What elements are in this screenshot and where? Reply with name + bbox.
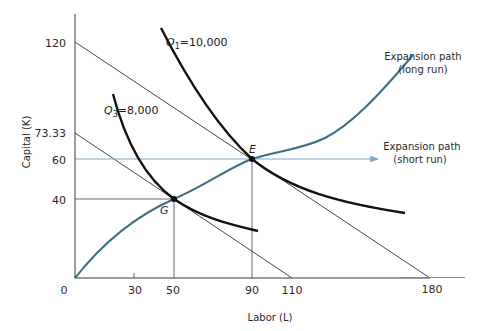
isoquant-expansion-chart: 120 73.33 60 40 0 30 50 90 110 180 Capit… xyxy=(0,0,484,331)
x-tick-110: 110 xyxy=(282,284,303,297)
label-q1-value: =10,000 xyxy=(180,36,228,49)
point-e-label: E xyxy=(249,143,256,156)
label-q3-prefix: Q xyxy=(104,104,113,117)
y-tick-73-33: 73.33 xyxy=(35,127,67,140)
annotation-long-run-line2: (long run) xyxy=(398,64,447,75)
y-tick-40: 40 xyxy=(52,194,66,207)
x-tick-90: 90 xyxy=(245,284,259,297)
x-tick-0: 0 xyxy=(61,284,68,297)
label-q1: Q1=10,000 xyxy=(166,36,227,51)
label-q3-value: =8,000 xyxy=(118,104,159,117)
point-e xyxy=(249,156,255,162)
annotation-short-run-line1: Expansion path xyxy=(383,141,460,152)
x-tick-180: 180 xyxy=(422,283,443,296)
point-g xyxy=(171,196,177,202)
point-g-label: G xyxy=(160,204,169,217)
annotation-long-run-line1: Expansion path xyxy=(384,51,461,62)
y-tick-120: 120 xyxy=(45,37,66,50)
x-tick-30-label: 30 xyxy=(128,284,142,297)
label-q1-prefix: Q xyxy=(166,36,175,49)
y-tick-60: 60 xyxy=(52,154,66,167)
annotation-short-run-line2: (short run) xyxy=(393,154,447,165)
isoquant-q1 xyxy=(161,28,405,213)
label-q3: Q3=8,000 xyxy=(104,104,158,119)
x-tick-50: 50 xyxy=(166,284,180,297)
x-axis-title: Labor (L) xyxy=(248,312,293,323)
y-axis-title: Capital (K) xyxy=(21,116,32,169)
